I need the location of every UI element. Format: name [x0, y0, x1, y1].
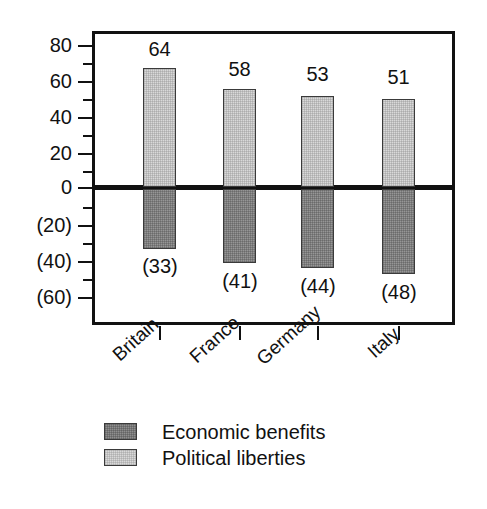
bar-chart: 80 60 40 20 0 (20) (40) (60) 64 (33): [0, 0, 487, 509]
value-label-political-liberties-france: 58: [213, 59, 266, 79]
x-tick-germany: [317, 326, 319, 340]
bar-economic-benefits-italy[interactable]: [382, 189, 415, 274]
value-label-economic-benefits-britain: (33): [129, 256, 191, 276]
bar-economic-benefits-germany[interactable]: [301, 189, 334, 268]
legend-label-political-liberties: Political liberties: [162, 446, 305, 470]
value-label-political-liberties-britain: 64: [133, 39, 186, 59]
legend-item-economic-benefits[interactable]: Economic benefits: [104, 420, 444, 444]
bar-political-liberties-britain[interactable]: [143, 68, 176, 187]
bar-political-liberties-italy[interactable]: [382, 99, 415, 187]
value-label-economic-benefits-france: (41): [209, 271, 271, 291]
legend: Economic benefits Political liberties: [104, 420, 444, 472]
bar-political-liberties-germany[interactable]: [301, 96, 334, 187]
bar-political-liberties-france[interactable]: [223, 89, 256, 187]
legend-swatch-political-liberties: [104, 449, 137, 466]
value-label-economic-benefits-italy: (48): [368, 282, 430, 302]
legend-swatch-economic-benefits: [104, 423, 137, 440]
value-label-economic-benefits-germany: (44): [287, 276, 349, 296]
bar-economic-benefits-france[interactable]: [223, 189, 256, 263]
value-label-political-liberties-italy: 51: [372, 67, 425, 87]
value-label-political-liberties-germany: 53: [291, 64, 344, 84]
legend-item-political-liberties[interactable]: Political liberties: [104, 446, 444, 470]
bar-economic-benefits-britain[interactable]: [143, 189, 176, 249]
legend-label-economic-benefits: Economic benefits: [162, 420, 325, 444]
